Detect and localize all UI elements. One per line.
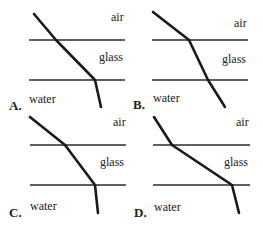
option-b-panel: air glass water B. xyxy=(133,12,248,112)
air-label: air xyxy=(236,115,249,129)
glass-label: glass xyxy=(99,50,123,64)
refraction-diagram: air glass water A. air glass water B. ai… xyxy=(0,0,263,228)
option-letter: D. xyxy=(134,205,147,220)
water-label: water xyxy=(30,199,57,213)
water-label: water xyxy=(29,92,56,106)
option-a-panel: air glass water A. xyxy=(9,10,125,113)
option-letter: B. xyxy=(133,97,145,112)
option-letter: C. xyxy=(9,205,22,220)
option-letter: A. xyxy=(9,98,22,113)
glass-label: glass xyxy=(224,155,248,169)
glass-label: glass xyxy=(100,155,124,169)
air-label: air xyxy=(234,16,247,30)
water-label: water xyxy=(154,200,181,214)
air-label: air xyxy=(113,115,126,129)
water-label: water xyxy=(153,91,180,105)
air-label: air xyxy=(111,10,124,24)
option-c-panel: air glass water C. xyxy=(9,115,126,220)
glass-label: glass xyxy=(222,52,246,66)
option-d-panel: air glass water D. xyxy=(134,115,250,220)
